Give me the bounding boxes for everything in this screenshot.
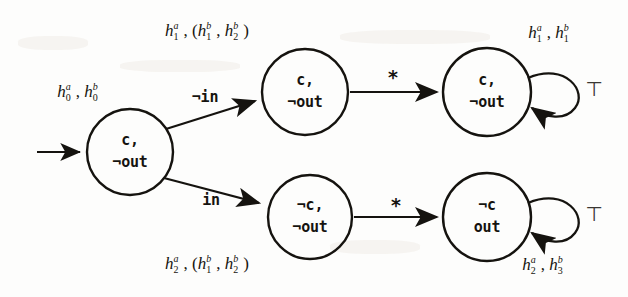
annotation-lower-branch: ha2, (hb1, hb2) (165, 253, 249, 275)
annot-a0-sub2: 0 (93, 92, 98, 103)
state-label-lower-right-line1: ¬c (474, 195, 501, 217)
annot-a1-h3: h (225, 21, 234, 40)
annot-a1-sup1: a (174, 20, 179, 31)
state-label-upper-middle-line2: ¬out (287, 92, 322, 114)
annot-a0-h1: h (57, 82, 66, 101)
annot-a2-sup3: b (233, 253, 238, 264)
annot-a2-sub2: 1 (206, 264, 211, 275)
annot-a0-h2: h (84, 82, 93, 101)
state-label-lower-right: ¬c out (474, 195, 501, 239)
state-label-upper-right: c, ¬out (469, 70, 504, 114)
annotation-initial-state: ha0, hb0 (57, 81, 103, 103)
annot-a2-sub3: 2 (233, 264, 238, 275)
annot-a1-open: , ( (184, 21, 198, 40)
annot-a1-sub1: 1 (174, 31, 179, 42)
annot-a2-close: ) (243, 254, 249, 273)
annot-a2-open: , ( (184, 254, 198, 273)
self-loop-upper-right (528, 73, 579, 116)
annot-a1-h1: h (165, 21, 174, 40)
annot-a4-sub2: 3 (558, 265, 563, 276)
annot-a3-sup2: b (564, 22, 569, 33)
annot-a2-sup2: b (206, 253, 211, 264)
self-loop-lower-right (528, 198, 579, 241)
annot-a2-h2: h (198, 254, 207, 273)
annot-a4-sup1: a (531, 254, 536, 265)
edge-label-in: in (202, 191, 220, 209)
annot-a0-comma: , (76, 82, 80, 101)
annotation-upper-right-state: ha1, hb1 (528, 22, 574, 44)
annot-a2-h3: h (225, 254, 234, 273)
edge-label-star-upper: * (388, 66, 398, 88)
diagram-graphics (0, 0, 628, 297)
state-label-lower-middle-line2: ¬out (292, 217, 327, 239)
edge-label-star-lower: * (391, 194, 401, 216)
annot-a3-sub1: 1 (537, 33, 542, 44)
annot-a4-sup2: b (558, 254, 563, 265)
annot-a1-sup3: b (233, 20, 238, 31)
state-label-lower-right-line2: out (474, 217, 501, 239)
annot-a2-comma: , (216, 254, 225, 273)
annot-a2-sub1: 2 (174, 264, 179, 275)
diagram-canvas: c, ¬out c, ¬out ¬c, ¬out c, ¬out ¬c out … (0, 0, 628, 297)
state-label-upper-right-line1: c, (469, 70, 504, 92)
annot-a1-sub3: 2 (233, 31, 238, 42)
state-label-lower-middle: ¬c, ¬out (292, 195, 327, 239)
annot-a0-sup2: b (93, 81, 98, 92)
state-label-lower-middle-line1: ¬c, (292, 195, 327, 217)
annotation-upper-branch: ha1, (hb1, hb2) (165, 20, 249, 42)
annot-a3-sup1: a (537, 22, 542, 33)
annot-a3-h1: h (528, 23, 537, 42)
annot-a1-h2: h (198, 21, 207, 40)
state-label-initial-line2: ¬out (112, 152, 147, 174)
annot-a1-sup2: b (206, 20, 211, 31)
annot-a1-comma: , (216, 21, 225, 40)
loop-label-upper-top: ⊤ (585, 77, 602, 101)
state-label-initial-line1: c, (112, 130, 147, 152)
annot-a3-comma: , (547, 23, 556, 42)
annot-a1-sub2: 1 (206, 31, 211, 42)
annot-a1-close: ) (243, 21, 249, 40)
annot-a0-sub1: 0 (66, 92, 71, 103)
annot-a4-h1: h (522, 255, 531, 274)
edge-label-not-in: ¬in (192, 88, 219, 106)
annotation-lower-right-state: ha2, hb3 (522, 254, 568, 276)
annot-a0-sup1: a (66, 81, 71, 92)
annot-a4-comma: , (541, 255, 550, 274)
state-label-upper-right-line2: ¬out (469, 92, 504, 114)
state-label-upper-middle: c, ¬out (287, 70, 322, 114)
annot-a2-sup1: a (174, 253, 179, 264)
annot-a3-sub2: 1 (564, 33, 569, 44)
loop-label-lower-top: ⊤ (585, 202, 602, 226)
state-label-upper-middle-line1: c, (287, 70, 322, 92)
annot-a4-sub1: 2 (531, 265, 536, 276)
annot-a3-h2: h (555, 23, 564, 42)
annot-a4-h2: h (549, 255, 558, 274)
state-label-initial: c, ¬out (112, 130, 147, 174)
annot-a2-h1: h (165, 254, 174, 273)
